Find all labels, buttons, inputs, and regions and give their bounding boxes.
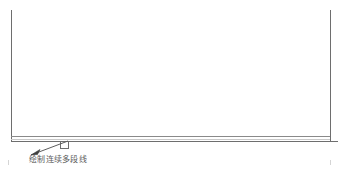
drawing-canvas: 绘制连续多段线: [0, 0, 338, 177]
annotation-label: 绘制连续多段线: [29, 155, 87, 165]
technical-drawing-svg: [0, 0, 338, 177]
